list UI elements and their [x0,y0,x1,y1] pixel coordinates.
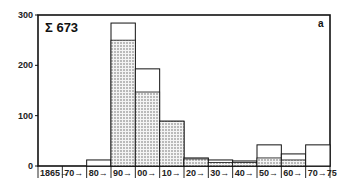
bars [87,23,330,166]
x-category-label: 30→ [210,168,229,178]
bar-stippled [135,92,159,166]
bar-stippled [257,158,281,166]
bar-stippled [208,162,232,166]
bar-stippled [281,160,305,166]
y-tick-label: 200 [18,60,33,70]
y-tick-label: 100 [18,111,33,121]
bar-stippled [184,159,208,166]
x-category-label: 50→ [259,168,278,178]
bar-stippled [233,162,257,166]
bar-total [306,145,330,166]
bar-stippled [160,121,184,166]
x-category-label: 40→ [235,168,254,178]
bar-stippled [111,40,135,166]
x-category-label: 70→ [64,168,83,178]
x-category-label: 00→ [137,168,156,178]
x-category-label: 80→ [89,168,108,178]
x-category-label: 60→ [283,168,302,178]
x-category-label: 70→75 [308,168,337,178]
y-tick-label: 300 [18,10,33,20]
y-axis: 0100200300 [18,10,38,171]
x-category-label: 20→ [186,168,205,178]
x-category-label: 90→ [113,168,132,178]
bar-total [87,160,111,166]
histogram-chart: 0100200300 1865→70→80→90→00→10→20→30→40→… [0,0,347,187]
panel-label: a [318,18,324,29]
chart-title: Σ 673 [45,20,78,35]
x-category-label: 10→ [162,168,181,178]
y-tick-label: 0 [28,161,33,171]
x-axis: 1865→70→80→90→00→10→20→30→40→50→60→70→75 [38,166,337,178]
